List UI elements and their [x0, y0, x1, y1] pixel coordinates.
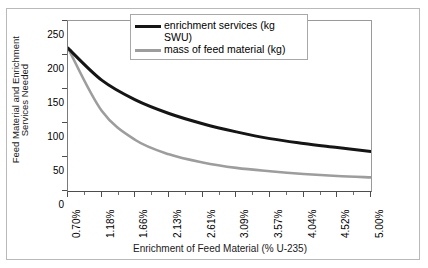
legend-item-enrichment-services: enrichment services (kg SWU) — [135, 19, 302, 43]
x-axis-tick-mark — [202, 192, 203, 197]
series-line-enrichment-services — [68, 48, 371, 151]
legend-label-enrichment-services: enrichment services (kg SWU) — [164, 19, 302, 43]
x-axis-tick-label: 2.61% — [206, 210, 217, 238]
series-line-mass-of-feed-material — [68, 48, 371, 177]
y-axis-tick-label: 50 — [53, 165, 64, 176]
x-axis-tick-label: 0.70% — [71, 210, 82, 238]
y-axis-tick-label: 250 — [47, 29, 64, 40]
x-axis-minor-tick-mark — [151, 192, 152, 195]
y-axis-tick-label: 150 — [47, 97, 64, 108]
x-axis-tick-label: 1.18% — [105, 210, 116, 238]
x-axis-tick-mark — [269, 192, 270, 197]
x-axis-tick-mark — [168, 192, 169, 197]
x-axis-tick-mark — [370, 192, 371, 197]
y-axis-title: Feed Material and Enrichment Services Ne… — [0, 0, 40, 200]
x-axis-minor-tick-mark — [118, 192, 119, 195]
x-axis-tick-mark — [303, 192, 304, 197]
x-axis-minor-tick-mark — [286, 192, 287, 195]
x-axis-tick-mark — [67, 192, 68, 197]
x-axis-title: Enrichment of Feed Material (% U-235) — [67, 243, 373, 254]
x-axis-minor-tick-mark — [219, 192, 220, 195]
y-axis-title-line-2: Services Needed — [20, 64, 30, 136]
x-axis-tick-mark — [336, 192, 337, 197]
x-axis-minor-tick-mark — [185, 192, 186, 195]
x-axis-tick-labels: 0.70%1.18%1.66%2.13%2.61%3.09%3.57%4.04%… — [0, 198, 428, 242]
x-axis-minor-tick-mark — [84, 192, 85, 195]
x-axis-minor-tick-mark — [252, 192, 253, 195]
y-axis-tick-labels: 250200150100500 — [36, 14, 64, 198]
x-axis-tick-label: 3.09% — [239, 210, 250, 238]
x-axis-minor-tick-mark — [353, 192, 354, 195]
chart-legend: enrichment services (kg SWU) mass of fee… — [130, 14, 308, 60]
chart-figure: Feed Material and Enrichment Services Ne… — [0, 0, 428, 268]
x-axis-tick-label: 2.13% — [172, 210, 183, 238]
x-axis-tick-mark — [134, 192, 135, 197]
x-axis-tick-label: 4.04% — [307, 210, 318, 238]
legend-swatch-icon-black — [135, 25, 161, 28]
y-axis-tick-label: 100 — [47, 131, 64, 142]
x-axis-tick-label: 4.52% — [340, 210, 351, 238]
x-axis-tick-mark — [101, 192, 102, 197]
x-axis-minor-tick-mark — [320, 192, 321, 195]
x-axis-tick-label: 1.66% — [138, 210, 149, 238]
x-axis-tick-mark — [235, 192, 236, 197]
x-axis-tick-label: 5.00% — [374, 210, 385, 238]
y-axis-tick-label: 200 — [47, 63, 64, 74]
legend-item-mass-of-feed-material: mass of feed material (kg) — [135, 43, 302, 55]
legend-swatch-icon-gray — [135, 49, 161, 52]
x-axis-tick-label: 3.57% — [273, 210, 284, 238]
legend-label-mass-of-feed-material: mass of feed material (kg) — [164, 43, 285, 55]
